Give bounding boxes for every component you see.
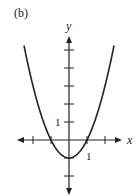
x-axis-right-arrow-icon xyxy=(115,137,122,143)
x-axis-label: x xyxy=(126,133,133,147)
y-axis-label: y xyxy=(65,19,72,33)
y-axis-up-arrow-icon xyxy=(66,36,72,43)
x-tick-label: 1 xyxy=(86,150,92,162)
axes xyxy=(17,36,122,195)
y-tick-label: 1 xyxy=(55,116,61,128)
x-axis-left-arrow-icon xyxy=(17,137,24,143)
parabola-plot: xy11 xyxy=(0,0,138,196)
y-axis-down-arrow-icon xyxy=(66,188,72,195)
